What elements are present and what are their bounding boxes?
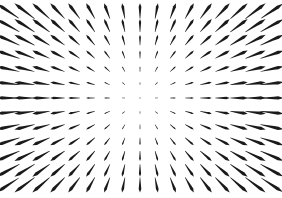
vector-arrow <box>86 3 95 19</box>
vector-arrow <box>215 3 230 19</box>
vector-arrow <box>32 66 49 72</box>
vector-arrow <box>139 138 140 145</box>
vector-arrow <box>170 124 176 129</box>
vector-arrow <box>155 66 158 71</box>
vector-arrow <box>86 177 95 192</box>
vector-arrow <box>215 111 229 114</box>
vector-arrow <box>139 19 141 32</box>
vector-arrow <box>50 111 64 114</box>
vector-arrow <box>32 3 49 19</box>
vector-arrow <box>50 177 65 192</box>
vector-arrow <box>185 97 194 99</box>
vector-arrow <box>122 138 125 146</box>
vector-arrow <box>170 151 176 161</box>
vector-arrow <box>14 3 34 19</box>
vector-arrow <box>230 177 247 192</box>
vector-arrow <box>230 81 247 85</box>
vector-arrow <box>32 138 49 146</box>
vector-arrow <box>50 138 65 146</box>
vector-arrow <box>139 35 141 45</box>
vector-arrow <box>170 111 176 114</box>
vector-arrow <box>104 138 110 146</box>
vector-arrow <box>170 35 176 45</box>
vector-arrow <box>32 111 49 115</box>
vector-arrow <box>32 177 49 192</box>
vector-arrow <box>86 138 95 146</box>
vector-arrow <box>104 35 110 45</box>
vector-arrow <box>140 66 141 71</box>
vector-arrow <box>170 82 176 85</box>
vector-arrow <box>155 164 159 177</box>
vector-arrow <box>50 82 64 86</box>
vector-arrow <box>122 164 126 177</box>
vector-arrow <box>86 66 95 71</box>
vector-arrow <box>104 177 110 192</box>
vector-arrow <box>230 96 247 99</box>
vector-arrow <box>50 51 65 59</box>
vector-arrow <box>140 82 141 85</box>
vector-arrow <box>121 177 125 192</box>
vector-arrow <box>104 111 110 114</box>
vector-arrow <box>200 51 212 59</box>
vector-arrow <box>140 111 141 113</box>
vector-arrow <box>50 66 65 72</box>
vector-arrow <box>170 97 176 98</box>
vector-arrow <box>68 3 80 19</box>
vector-arrow <box>68 82 80 85</box>
vector-arrow <box>230 111 247 115</box>
vector-arrow <box>215 164 230 177</box>
vector-arrow <box>68 151 80 161</box>
vector-arrow <box>50 164 65 177</box>
vector-arrow <box>32 164 49 177</box>
vector-arrow <box>185 51 194 59</box>
vector-arrow <box>261 4 282 19</box>
vector-arrow <box>104 82 110 85</box>
vector-arrow <box>50 35 65 46</box>
vector-arrow <box>104 66 110 71</box>
vector-arrow <box>200 35 212 46</box>
vector-arrow <box>86 51 95 59</box>
vector-arrow <box>86 97 95 99</box>
vector-arrow <box>185 111 194 114</box>
vector-arrow <box>32 124 49 130</box>
vector-arrow <box>200 177 212 192</box>
vector-field-figure <box>0 0 282 198</box>
vector-arrow <box>185 19 194 32</box>
vector-arrow <box>32 51 49 59</box>
vector-arrow <box>122 19 126 32</box>
vector-arrow <box>230 51 247 59</box>
vector-arrow <box>139 51 140 59</box>
vector-arrow <box>215 138 230 146</box>
vector-arrow <box>155 3 159 18</box>
vector-arrow <box>104 19 110 32</box>
vector-arrow <box>185 164 194 177</box>
vector-arrow <box>14 164 34 177</box>
vector-arrow <box>215 97 229 100</box>
vector-arrow <box>155 111 158 114</box>
vector-arrow <box>185 138 194 146</box>
vector-arrow <box>86 19 95 32</box>
vector-arrow <box>32 151 49 161</box>
vector-arrow <box>50 151 65 161</box>
vector-arrow <box>230 66 247 72</box>
vector-arrow <box>230 35 247 46</box>
vector-arrow <box>215 35 230 46</box>
vector-arrow <box>140 97 141 99</box>
vector-arrow <box>0 4 19 19</box>
vector-arrow <box>155 35 158 45</box>
vector-arrow <box>155 51 158 59</box>
vector-arrow <box>68 66 80 71</box>
vector-field-canvas <box>0 0 282 198</box>
vector-arrow <box>185 82 194 85</box>
vector-arrow <box>185 3 194 19</box>
vector-arrow <box>122 98 125 99</box>
vector-arrow <box>68 111 80 114</box>
vector-arrow <box>155 82 158 85</box>
vector-arrow <box>68 19 80 32</box>
vector-arrow <box>68 164 80 177</box>
vector-arrow <box>68 35 80 46</box>
vector-arrow <box>200 111 212 114</box>
vector-arrow <box>86 151 95 161</box>
vector-arrow <box>121 3 125 18</box>
vector-arrow <box>104 97 110 98</box>
